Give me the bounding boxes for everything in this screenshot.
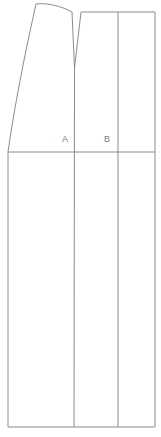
center-front-line [74,68,75,427]
panel-a-label: A [62,135,68,144]
pattern-draft-svg [0,0,161,437]
panel-b-label: B [104,135,110,144]
diagram-background [0,0,161,437]
pattern-draft-diagram: A B [0,0,161,437]
